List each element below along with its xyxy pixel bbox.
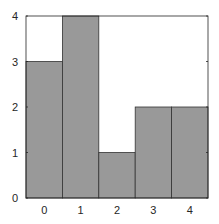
x-tick-label: 1 [78,204,84,216]
bar-0 [26,62,62,199]
histogram-chart: 01234 01234 [0,0,219,224]
y-tick-label: 1 [12,147,18,159]
bar-2 [99,153,135,199]
bar-4 [172,107,208,198]
x-axis: 01234 [41,204,193,216]
x-tick-label: 2 [114,204,120,216]
y-tick-label: 4 [12,10,18,22]
y-tick-label: 3 [12,56,18,68]
y-tick-label: 0 [12,192,18,204]
x-tick-label: 3 [150,204,156,216]
bar-3 [135,107,171,198]
bars [26,16,208,198]
x-tick-label: 0 [41,204,47,216]
x-tick-label: 4 [187,204,193,216]
y-tick-label: 2 [12,101,18,113]
bar-1 [62,16,98,198]
